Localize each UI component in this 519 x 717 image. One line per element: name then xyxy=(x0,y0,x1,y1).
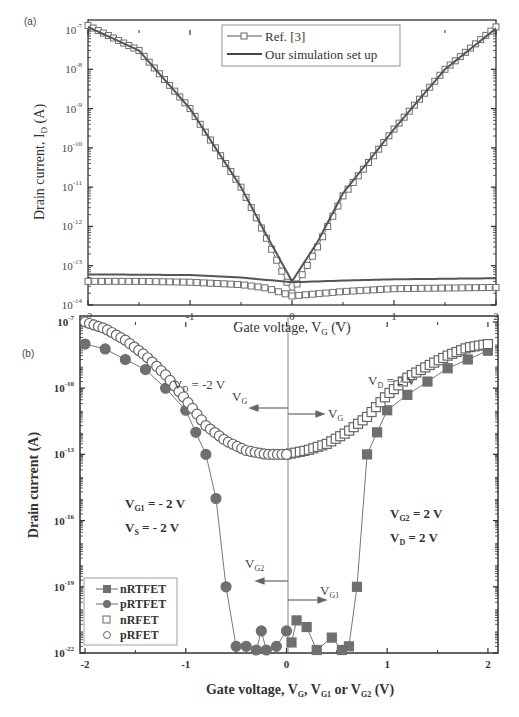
panel-b-label: (b) xyxy=(22,348,34,359)
data-point xyxy=(261,645,271,655)
data-point xyxy=(187,279,193,285)
data-point xyxy=(241,282,247,288)
y-tick-label: 10-7 xyxy=(57,314,74,328)
data-point xyxy=(167,279,173,285)
y-tick-label: 10-16 xyxy=(54,513,75,527)
x-tick-label: 0 xyxy=(284,658,290,670)
y-tick-label: 10-10 xyxy=(54,380,75,394)
data-point xyxy=(221,281,227,287)
data-point xyxy=(452,285,458,291)
annot-vg2-arrow-label: VG2 xyxy=(245,556,264,573)
x-tick-label: 2 xyxy=(485,658,491,670)
y-tick-label: 10-13 xyxy=(54,446,75,460)
panel-a-legend: Ref. [3] Our simulation set up xyxy=(222,25,400,66)
data-point xyxy=(201,449,211,459)
annot-vd-right: VD = 2 V xyxy=(368,373,417,390)
y-tick-label: 10-12 xyxy=(62,218,83,232)
data-point xyxy=(304,262,310,268)
data-point xyxy=(241,641,251,651)
data-point xyxy=(99,278,105,284)
data-point xyxy=(180,279,186,285)
panel-b-x-tick-labels: -2-1012 xyxy=(80,658,491,670)
data-point xyxy=(384,286,390,292)
annot-vg-right: VG xyxy=(328,406,343,423)
data-point xyxy=(173,279,179,285)
data-point xyxy=(146,279,152,285)
data-point xyxy=(271,641,281,651)
data-point xyxy=(473,285,479,291)
data-point xyxy=(425,285,431,291)
legend-prfet: pRFET xyxy=(120,628,159,642)
data-point xyxy=(443,364,452,373)
data-point xyxy=(256,626,266,636)
panel-a: (a) 10-710-810-910-1010-1110-1210-1310-1… xyxy=(24,16,499,337)
data-point xyxy=(486,285,492,291)
data-point xyxy=(282,291,288,297)
data-point xyxy=(363,450,372,459)
data-point xyxy=(231,641,241,651)
data-point xyxy=(248,283,254,289)
data-point xyxy=(279,268,285,274)
data-point xyxy=(405,286,411,292)
data-point xyxy=(439,285,445,291)
data-point xyxy=(119,278,125,284)
arrow-right-icon xyxy=(316,411,324,417)
data-point xyxy=(344,642,353,651)
annot-vs-setting: VS = - 2 V xyxy=(125,520,180,537)
arrow-left-icon xyxy=(250,405,258,411)
legend-nrtfet: nRTFET xyxy=(120,582,166,596)
data-point xyxy=(211,494,221,504)
data-point xyxy=(269,287,275,293)
y-tick-label: 10-14 xyxy=(62,297,83,311)
data-point xyxy=(292,616,301,625)
data-point xyxy=(398,286,404,292)
data-point xyxy=(235,281,241,287)
y-tick-label: 10-13 xyxy=(62,258,83,272)
data-point xyxy=(126,278,132,284)
figure: (a) 10-710-810-910-1010-1110-1210-1310-1… xyxy=(0,0,519,717)
data-point xyxy=(302,623,311,632)
data-point xyxy=(289,293,295,299)
data-point xyxy=(139,278,145,284)
data-point xyxy=(287,638,296,647)
data-point xyxy=(194,280,200,286)
data-point xyxy=(309,291,315,297)
legend-nrfet: nRFET xyxy=(120,613,159,627)
legend-prtfet: pRTFET xyxy=(120,597,166,611)
filled-square-marker-icon xyxy=(103,585,111,593)
data-point xyxy=(153,279,159,285)
open-square-marker-icon xyxy=(241,33,247,39)
annot-vd-setting: VD = 2 V xyxy=(390,530,439,547)
panel-a-y-tick-labels: 10-710-810-910-1010-1110-1210-1310-14 xyxy=(62,22,83,311)
panel-b: (b) 10-710-1010-1310-1610-1910-22 -2-101… xyxy=(22,314,498,699)
data-point xyxy=(432,285,438,291)
data-point xyxy=(221,582,231,592)
data-point xyxy=(373,428,382,437)
filled-circle-marker-icon xyxy=(103,600,111,608)
legend-our-sim: Our simulation set up xyxy=(265,47,377,62)
data-point xyxy=(423,377,432,386)
panel-b-x-axis-label: Gate voltage, VG, VG1 or VG2 (V) xyxy=(206,682,395,699)
data-point xyxy=(275,289,281,295)
annot-vd-left: VD = -2 V xyxy=(173,377,226,394)
panel-b-y-axis-label: Drain current (A) xyxy=(26,432,42,539)
data-point xyxy=(323,290,329,296)
data-point xyxy=(364,287,370,293)
data-point xyxy=(120,354,130,364)
arrow-left-icon xyxy=(256,578,264,584)
data-point xyxy=(299,272,305,278)
data-point xyxy=(303,292,309,298)
data-point xyxy=(377,286,383,292)
data-point xyxy=(330,289,336,295)
y-tick-label: 10-7 xyxy=(65,22,82,36)
data-point xyxy=(255,284,261,290)
data-point xyxy=(214,281,220,287)
data-point xyxy=(327,633,336,642)
data-point xyxy=(483,340,492,349)
data-point xyxy=(133,278,139,284)
data-point xyxy=(466,285,472,291)
annot-vg1-setting: VG1 = - 2 V xyxy=(125,496,186,513)
legend-ref3: Ref. [3] xyxy=(265,29,305,44)
data-point xyxy=(357,288,363,294)
data-point xyxy=(343,288,349,294)
